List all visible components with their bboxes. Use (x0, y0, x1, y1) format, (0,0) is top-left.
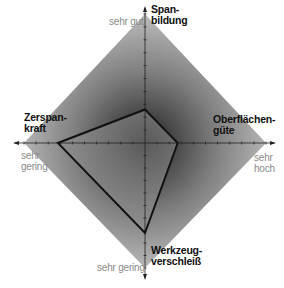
axis-title-zerspankraft: Zerspan- kraft (24, 112, 67, 134)
axis-title-line: verschleiß (151, 256, 202, 267)
arrow-up-icon (143, 6, 147, 12)
scale-label-line: sehr (254, 152, 275, 163)
axis-title-line: bildung (151, 15, 188, 26)
axis-title-oberflaechenguete: Oberflächen- güte (213, 114, 275, 136)
scale-label-left: sehr gering (21, 150, 48, 172)
axis-title-werkzeugverschleiss: Werkzeug- verschleiß (151, 245, 202, 267)
axis-title-line: güte (213, 125, 275, 136)
scale-label-right: sehr hoch (254, 152, 275, 174)
arrow-right-icon (270, 141, 276, 145)
radar-chart (0, 0, 284, 288)
arrow-left-icon (13, 141, 19, 145)
scale-label-line: hoch (254, 163, 275, 174)
arrow-down-icon (143, 274, 147, 280)
axis-title-line: kraft (24, 123, 67, 134)
scale-label-bottom: sehr gering (97, 262, 145, 273)
scale-label-line: gering (21, 161, 48, 172)
scale-label-top: sehr gut (109, 16, 144, 27)
axis-title-spanbildung: Span- bildung (151, 4, 188, 26)
scale-label-line: sehr (21, 150, 48, 161)
